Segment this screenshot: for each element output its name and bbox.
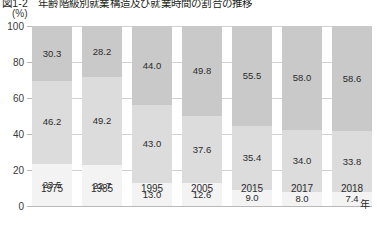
bar-segment-middle: 37.6 xyxy=(182,116,222,184)
bar-value-label: 33.8 xyxy=(343,157,362,167)
bar-value-label: 35.4 xyxy=(243,153,262,163)
bar-value-label: 55.5 xyxy=(243,71,262,81)
bar-value-label: 58.0 xyxy=(293,73,312,83)
bar-segment-middle: 49.2 xyxy=(82,77,122,166)
bar-value-label: 37.6 xyxy=(193,145,212,155)
bar-value-label: 9.0 xyxy=(245,193,258,203)
bar-value-label: 58.6 xyxy=(343,74,362,84)
bar-value-label: 49.8 xyxy=(193,66,212,76)
bar-value-label: 49.2 xyxy=(93,116,112,126)
y-axis-tick-label: 80 xyxy=(0,57,24,68)
chart-figure: 図1-2 年齢階級別就業構造及び就業時間の割合の推移 (%) 30.346.22… xyxy=(0,0,377,240)
bar-value-label: 34.0 xyxy=(293,156,312,166)
bar-value-label: 7.4 xyxy=(345,194,358,204)
y-axis-tick-label: 0 xyxy=(0,201,24,212)
bar-segment-middle: 46.2 xyxy=(32,81,72,164)
bar-value-label: 28.2 xyxy=(93,47,112,57)
y-axis-unit-label: (%) xyxy=(12,8,28,19)
bar-value-label: 44.0 xyxy=(143,61,162,71)
bar-1985: 28.249.222.7 xyxy=(82,26,122,206)
y-tick-mark-20 xyxy=(27,170,32,171)
x-axis-unit-label: 年 xyxy=(360,196,370,211)
y-tick-mark-80 xyxy=(27,62,32,63)
bar-segment-top: 30.3 xyxy=(32,26,72,81)
y-axis-tick-label: 60 xyxy=(0,93,24,104)
x-axis-tick-label: 2018 xyxy=(322,183,377,194)
y-axis-tick-label: 40 xyxy=(0,129,24,140)
bar-segment-middle: 35.4 xyxy=(232,126,272,190)
bar-segment-top: 58.6 xyxy=(332,26,372,131)
bar-2015: 55.535.49.0 xyxy=(232,26,272,206)
bar-segment-top: 28.2 xyxy=(82,26,122,77)
figure-title-clipped: 図1-2 年齢階級別就業構造及び就業時間の割合の推移 xyxy=(0,0,377,9)
page-title: 図1-2 年齢階級別就業構造及び就業時間の割合の推移 xyxy=(2,0,252,9)
bar-segment-top: 49.8 xyxy=(182,26,222,116)
y-tick-mark-60 xyxy=(27,98,32,99)
bar-value-label: 30.3 xyxy=(43,49,62,59)
y-axis-tick-label: 100 xyxy=(0,21,24,32)
bar-segment-middle: 43.0 xyxy=(132,105,172,182)
bar-2017: 58.034.08.0 xyxy=(282,26,322,206)
bar-segment-top: 55.5 xyxy=(232,26,272,126)
plot-area: 30.346.223.528.249.222.744.043.013.049.8… xyxy=(32,26,372,206)
y-tick-mark-0 xyxy=(27,206,32,207)
bar-2005: 49.837.612.6 xyxy=(182,26,222,206)
bar-group: 30.346.223.528.249.222.744.043.013.049.8… xyxy=(32,26,372,206)
bar-value-label: 43.0 xyxy=(143,139,162,149)
bar-1975: 30.346.223.5 xyxy=(32,26,72,206)
bar-segment-top: 44.0 xyxy=(132,26,172,105)
y-axis-tick-label: 20 xyxy=(0,165,24,176)
bar-value-label: 8.0 xyxy=(295,194,308,204)
bar-2018: 58.633.87.4 xyxy=(332,26,372,206)
bar-1995: 44.043.013.0 xyxy=(132,26,172,206)
y-tick-mark-100 xyxy=(27,26,32,27)
bar-segment-top: 58.0 xyxy=(282,26,322,130)
bar-value-label: 46.2 xyxy=(43,117,62,127)
y-tick-mark-40 xyxy=(27,134,32,135)
